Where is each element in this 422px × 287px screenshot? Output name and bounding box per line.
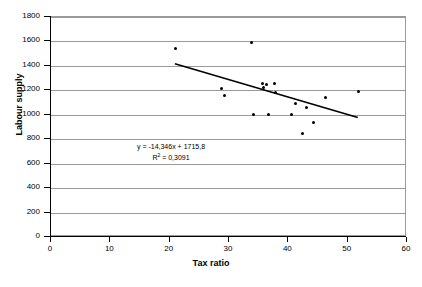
y-tick [44, 114, 50, 115]
y-tick-label: 200 [2, 208, 40, 216]
y-tick [44, 187, 50, 188]
x-tick [228, 237, 229, 242]
data-point [223, 94, 226, 97]
y-tick [44, 40, 50, 41]
y-tick [44, 89, 50, 90]
y-tick [44, 138, 50, 139]
x-tick [406, 237, 407, 242]
x-tick-label: 0 [35, 245, 65, 253]
x-tick [50, 237, 51, 242]
data-point [261, 82, 264, 85]
x-tick-label: 30 [213, 245, 243, 253]
trend-line [51, 17, 405, 235]
y-tick [44, 212, 50, 213]
y-tick-label: 1600 [2, 36, 40, 44]
data-point [273, 82, 276, 85]
regression-r-squared: R2 = 0,3091 [96, 151, 246, 162]
y-tick [44, 16, 50, 17]
x-axis-title: Tax ratio [0, 259, 422, 268]
trend-line-segment [175, 64, 358, 118]
data-point [250, 41, 253, 44]
regression-equation: y = -14,346x + 1715,8 [96, 142, 246, 151]
x-tick [109, 237, 110, 242]
y-tick [44, 163, 50, 164]
data-point [301, 132, 304, 135]
y-tick-label: 0 [2, 232, 40, 240]
x-tick [287, 237, 288, 242]
y-tick [44, 65, 50, 66]
plot-area [50, 16, 406, 236]
x-tick [169, 237, 170, 242]
x-tick-label: 60 [391, 245, 421, 253]
x-tick-label: 20 [154, 245, 184, 253]
x-tick-label: 40 [272, 245, 302, 253]
y-axis-line [50, 16, 51, 237]
x-tick-label: 50 [332, 245, 362, 253]
scatter-chart-figure: 020040060080010001200140016001800 010203… [0, 0, 422, 287]
regression-annotation: y = -14,346x + 1715,8 R2 = 0,3091 [96, 142, 246, 162]
data-point [305, 106, 308, 109]
data-point [324, 96, 327, 99]
data-point [267, 113, 270, 116]
y-tick-label: 400 [2, 183, 40, 191]
y-tick-label: 1800 [2, 12, 40, 20]
x-tick [347, 237, 348, 242]
y-axis-title: Labour supply [15, 50, 24, 160]
data-point [357, 90, 360, 93]
x-tick-label: 10 [94, 245, 124, 253]
r2-value: = 0,3091 [160, 154, 189, 161]
data-point [265, 83, 268, 86]
y-tick-label: 600 [2, 159, 40, 167]
